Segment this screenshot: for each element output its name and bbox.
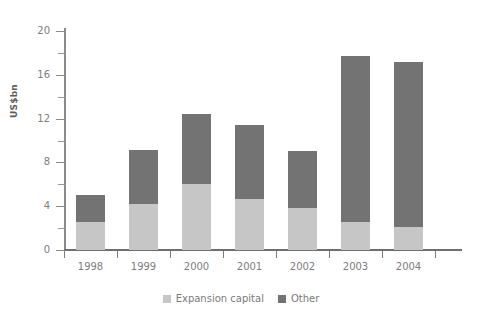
x-tick [329,251,330,258]
bar-segment-other-2003[interactable] [341,56,370,221]
legend-label: Expansion capital [176,293,264,304]
bar-segment-expansion-capital-2003[interactable] [341,222,370,250]
y-tick-minor [58,228,65,229]
y-tick-label: 0 [10,245,50,255]
x-tick-label-2000: 2000 [171,261,223,273]
legend-item[interactable]: Expansion capital [163,293,264,304]
y-tick-label: 16 [10,70,50,80]
bar-1998[interactable] [76,195,105,250]
x-tick-label-1999: 1999 [118,261,170,273]
bar-2000[interactable] [182,114,211,250]
bar-segment-expansion-capital-2001[interactable] [235,199,264,250]
bar-segment-expansion-capital-1998[interactable] [76,222,105,250]
bar-segment-expansion-capital-2000[interactable] [182,184,211,250]
y-tick-major [56,206,65,207]
bar-2002[interactable] [288,151,317,250]
bar-segment-other-2000[interactable] [182,114,211,184]
y-tick-major [56,75,65,76]
chart-legend: Expansion capitalOther [0,293,482,304]
bar-segment-other-2004[interactable] [394,62,423,227]
y-tick-major [56,162,65,163]
x-tick-label-1998: 1998 [65,261,117,273]
y-tick-label: 4 [10,201,50,211]
bar-segment-other-1998[interactable] [76,195,105,221]
x-tick [276,251,277,258]
bar-2004[interactable] [394,62,423,250]
bar-2001[interactable] [235,125,264,250]
bar-segment-expansion-capital-1999[interactable] [129,204,158,250]
x-tick [223,251,224,258]
x-tick-label-2003: 2003 [330,261,382,273]
legend-label: Other [291,293,319,304]
x-tick [382,251,383,258]
x-tick [170,251,171,258]
legend-swatch-icon [163,295,171,303]
y-tick-minor [58,53,65,54]
y-tick-major [56,119,65,120]
bar-segment-expansion-capital-2002[interactable] [288,208,317,250]
bar-segment-other-2002[interactable] [288,151,317,208]
y-tick-minor [58,97,65,98]
y-tick-major [56,31,65,32]
y-tick-label: 8 [10,157,50,167]
legend-swatch-icon [278,295,286,303]
x-tick [435,251,436,258]
bar-segment-expansion-capital-2004[interactable] [394,227,423,250]
stacked-bar-chart: US$bn 048121620 199819992000200120022003… [0,0,482,323]
bar-segment-other-2001[interactable] [235,125,264,198]
x-tick-label-2002: 2002 [277,261,329,273]
y-axis-line [64,28,66,251]
y-tick-minor [58,184,65,185]
x-tick [117,251,118,258]
y-tick-label: 12 [10,114,50,124]
x-tick [64,251,65,258]
y-tick-minor [58,141,65,142]
bar-1999[interactable] [129,150,158,250]
x-tick-label-2004: 2004 [383,261,435,273]
bar-segment-other-1999[interactable] [129,150,158,204]
x-tick-label-2001: 2001 [224,261,276,273]
bar-2003[interactable] [341,56,370,250]
legend-item[interactable]: Other [278,293,319,304]
y-tick-label: 20 [10,26,50,36]
